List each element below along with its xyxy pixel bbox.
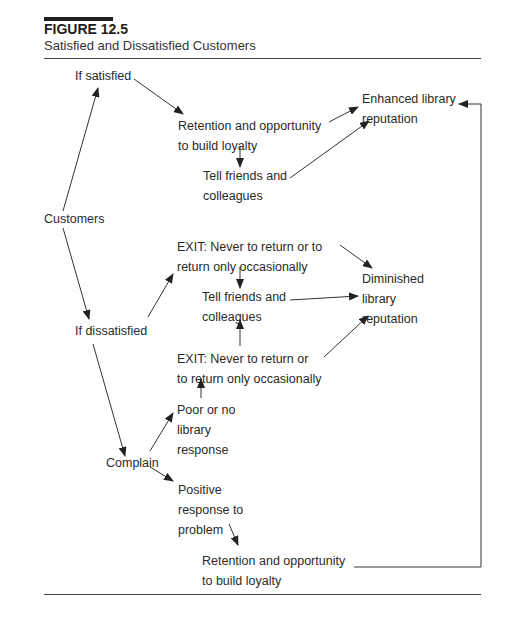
edge-tellfriends-diminished (290, 296, 358, 300)
edge-retention-enhanced-loop (354, 104, 481, 567)
node-tell-friends-top: Tell friends and colleagues (203, 166, 287, 206)
edge-complain-poor (150, 413, 173, 451)
node-enhanced-reputation: Enhanced library reputation (362, 89, 456, 129)
edge-dissatisfied-exit (148, 274, 173, 317)
edge-customers-dissatisfied (63, 228, 89, 319)
node-diminished-reputation: Diminished library reputation (362, 269, 424, 329)
footer-rule (44, 594, 481, 595)
node-retention-bottom: Retention and opportunity to build loyal… (202, 551, 345, 591)
node-exit-upper: EXIT: Never to return or to return only … (177, 237, 322, 277)
node-customers: Customers (44, 209, 104, 229)
edge-exit-diminished (340, 245, 372, 268)
node-if-satisfied: If satisfied (75, 66, 131, 86)
node-retention-top: Retention and opportunity to build loyal… (178, 116, 321, 156)
edge-retention-enhanced (329, 107, 358, 122)
node-poor-response: Poor or no library response (177, 400, 235, 460)
edge-customers-satisfied (63, 88, 98, 211)
node-complain: Complain (106, 453, 159, 473)
edge-satisfied-retention (134, 79, 183, 114)
node-tell-friends-mid: Tell friends and colleagues (202, 287, 286, 327)
node-positive-response: Positive response to problem (178, 480, 243, 540)
edge-dissatisfied-complain (93, 344, 125, 456)
node-exit-lower: EXIT: Never to return or to return only … (177, 349, 322, 389)
node-if-dissatisfied: If dissatisfied (75, 321, 147, 341)
